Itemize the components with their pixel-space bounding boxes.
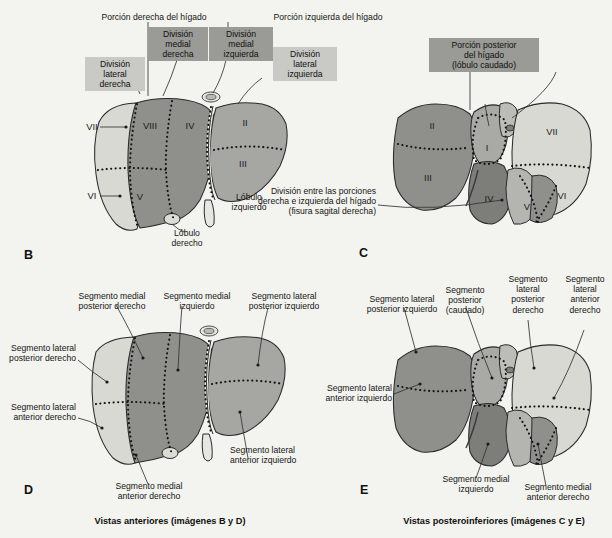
- label-e-medial-anterior-derecho: Segmento medial anterior derecho: [508, 482, 608, 502]
- caption-anterior-views: Vistas anteriores (imágenes B y D): [52, 516, 288, 526]
- liver-e-ivc-lumen: [506, 367, 514, 373]
- label-e-lateral-posterior-derecho: Segmento lateral posterior derecho: [497, 274, 559, 315]
- liver-e-seg-medial-ant-der: [530, 417, 557, 464]
- label-e-posterior-caudado: Segmento posterior (caudado): [434, 285, 496, 316]
- caption-posteroinferior-views: Vistas posteroinferiores (imágenes C y E…: [378, 516, 610, 526]
- label-e-lateral-anterior-izquierdo: Segmento lateral anterior izquierdo: [296, 383, 392, 403]
- label-e-lateral-anterior-derecho: Segmento lateral anterior derecho: [558, 274, 612, 315]
- leader-e-lateral-post-izq: [404, 308, 416, 352]
- panel-letter-e: E: [360, 483, 369, 497]
- liver-e-left: [393, 346, 474, 452]
- panel-e-artwork: [0, 0, 612, 538]
- liver-segments-figure: Porción derecha del hígado Porción izqui…: [0, 0, 612, 538]
- liver-e-seg-medial-izq: [469, 403, 511, 466]
